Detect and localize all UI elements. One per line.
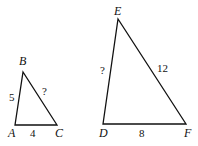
vertex-label-a: A <box>7 126 16 140</box>
side-label-df: 8 <box>139 127 145 139</box>
side-label-ac: 4 <box>30 127 36 139</box>
triangle-abc <box>15 72 57 125</box>
vertex-label-b: B <box>19 54 27 68</box>
side-label-ef: 12 <box>157 62 168 74</box>
side-label-de: ? <box>100 64 105 76</box>
vertex-label-d: D <box>98 126 108 140</box>
triangle-def <box>103 19 186 124</box>
vertex-label-e: E <box>113 4 122 18</box>
side-label-ab: 5 <box>9 91 15 103</box>
vertex-label-f: F <box>183 126 192 140</box>
vertex-label-c: C <box>55 126 64 140</box>
side-label-bc: ? <box>42 85 47 97</box>
similar-triangles-diagram: B A C 5 4 ? E D F ? 12 8 <box>0 0 198 146</box>
